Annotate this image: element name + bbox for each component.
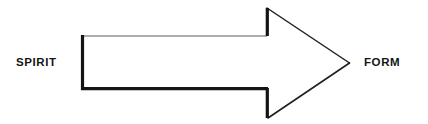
diagram-canvas: SPIRIT FORM [0, 0, 428, 124]
label-form: FORM [364, 56, 400, 68]
arrow-body-fill [81, 8, 349, 118]
label-spirit: SPIRIT [16, 56, 57, 68]
